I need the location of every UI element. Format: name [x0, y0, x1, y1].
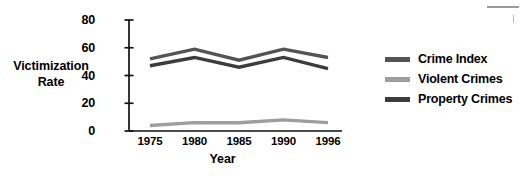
y-tick-label: 80: [81, 13, 95, 27]
chart-canvas: [100, 12, 345, 164]
y-tick-label: 40: [81, 69, 95, 83]
legend-item-label: Violent Crimes: [418, 72, 503, 86]
legend-swatch-icon: [385, 77, 410, 82]
y-tick-label: 0: [88, 124, 95, 138]
legend-swatch-icon: [385, 57, 410, 62]
plot-area: 020406080 19751980198519901996 Year: [100, 12, 345, 164]
legend-item[interactable]: Violent Crimes: [385, 70, 512, 88]
scan-artifact-mark: [513, 15, 514, 23]
chart-figure: Victimization Rate 020406080 19751980198…: [0, 0, 521, 178]
legend-swatch-icon: [385, 97, 410, 102]
x-axis-title: Year: [100, 152, 345, 166]
series-line-violent-crimes: [150, 120, 328, 126]
legend-item-label: Property Crimes: [418, 92, 512, 106]
legend-item[interactable]: Crime Index: [385, 50, 512, 68]
legend-item[interactable]: Property Crimes: [385, 90, 512, 108]
y-tick-label: 60: [81, 41, 95, 55]
series-line-crime-index: [150, 49, 328, 60]
y-tick-label: 20: [81, 96, 95, 110]
chart-legend: Crime IndexViolent CrimesProperty Crimes: [385, 50, 512, 110]
scan-artifact-bar: [487, 6, 519, 8]
legend-item-label: Crime Index: [418, 52, 487, 66]
